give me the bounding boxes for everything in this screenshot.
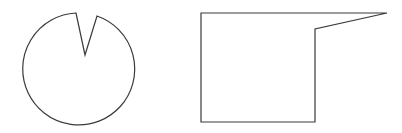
rectangle-with-spike-shape — [201, 13, 387, 122]
notched-circle-shape — [23, 13, 135, 125]
diagram-canvas — [0, 0, 402, 133]
